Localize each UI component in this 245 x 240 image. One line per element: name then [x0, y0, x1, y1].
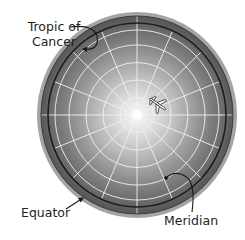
tropic-label-line2: Cancer [19, 34, 89, 49]
globe-diagram: Tropic of Cancer Equator Meridian [0, 0, 245, 240]
pole-highlight [132, 110, 142, 120]
tropic-of-cancer-label: Tropic of Cancer [19, 19, 89, 49]
tropic-label-line1: Tropic of [19, 19, 89, 34]
meridian-label: Meridian [164, 213, 218, 228]
meridian-dot [164, 176, 168, 180]
equator-label: Equator [21, 205, 70, 220]
